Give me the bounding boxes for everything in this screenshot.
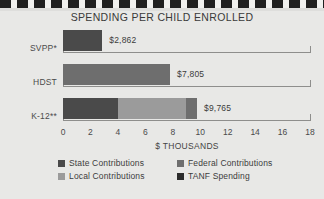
x-tick-label: 2 <box>80 127 100 137</box>
legend-swatch-icon <box>177 160 184 167</box>
row-baseline-cap-right-2 <box>310 114 311 121</box>
bar-row: HDST $7,805 <box>0 61 324 94</box>
bar-row: K-12** $9,765 <box>0 95 324 128</box>
bar-segment-local-contributions <box>118 98 186 119</box>
bar-segment-state-contributions <box>63 98 118 119</box>
x-axis-title: $ THOUSANDS <box>63 141 311 151</box>
category-label-2: K-12** <box>0 111 57 121</box>
legend-item: State Contributions <box>58 158 144 168</box>
scan-edge-decoration <box>0 0 324 8</box>
chart-title: SPENDING PER CHILD ENROLLED <box>0 11 324 23</box>
row-baseline-2 <box>63 120 310 121</box>
x-tick-label: 10 <box>190 127 210 137</box>
x-tick-label: 18 <box>300 127 320 137</box>
legend-label: State Contributions <box>69 158 144 168</box>
row-baseline-cap-right-0 <box>310 46 311 53</box>
x-tick-label: 16 <box>273 127 293 137</box>
value-label-2: $9,765 <box>204 103 231 113</box>
row-baseline-0 <box>63 52 310 53</box>
value-label-0: $2,862 <box>109 35 136 45</box>
category-label-0: SVPP* <box>0 43 57 53</box>
legend-label: TANF Spending <box>188 171 250 181</box>
plot-area: SVPP* $2,862 HDST $7,805 K-12** $9,765 <box>0 27 324 127</box>
stacked-bar-1 <box>63 64 170 85</box>
legend-swatch-icon <box>58 160 65 167</box>
legend-swatch-icon <box>177 173 184 180</box>
chart-legend: State ContributionsFederal Contributions… <box>58 158 308 188</box>
bar-segment-federal-contributions <box>63 64 170 85</box>
x-axis-ticks: 024681012141618 <box>0 127 324 141</box>
legend-item: TANF Spending <box>177 171 250 181</box>
legend-item: Local Contributions <box>58 171 145 181</box>
bar-segment-federal-contributions <box>186 98 197 119</box>
x-tick-label: 0 <box>53 127 73 137</box>
x-tick-label: 8 <box>163 127 183 137</box>
x-tick-label: 14 <box>245 127 265 137</box>
legend-label: Federal Contributions <box>188 158 272 168</box>
legend-swatch-icon <box>58 173 65 180</box>
x-tick-label: 4 <box>108 127 128 137</box>
legend-item: Federal Contributions <box>177 158 272 168</box>
x-tick-label: 6 <box>135 127 155 137</box>
row-baseline-cap-right-1 <box>310 80 311 87</box>
x-tick-label: 12 <box>218 127 238 137</box>
row-baseline-1 <box>63 86 310 87</box>
legend-label: Local Contributions <box>69 171 145 181</box>
stacked-bar-0 <box>63 30 102 51</box>
stacked-bar-2 <box>63 98 197 119</box>
value-label-1: $7,805 <box>177 69 204 79</box>
chart-figure: SPENDING PER CHILD ENROLLED SVPP* $2,862… <box>0 0 324 199</box>
bar-row: SVPP* $2,862 <box>0 27 324 60</box>
bar-segment-state-contributions <box>63 30 102 51</box>
category-label-1: HDST <box>0 77 57 87</box>
